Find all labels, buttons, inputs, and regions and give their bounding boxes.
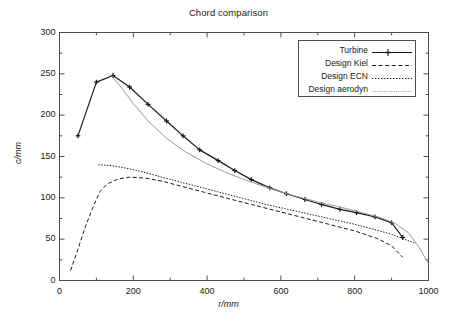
legend-label-design-aerodyn: Design aerodyn [308, 84, 368, 94]
chart-figure: Chord comparison 050100150200250300 0200… [0, 0, 457, 325]
x-axis-title: r/mm [0, 299, 457, 309]
legend-label-turbine: Turbine [339, 45, 368, 55]
series-turbine [76, 73, 406, 240]
legend-item-design-aerodyn[interactable]: Design aerodyn [299, 82, 415, 95]
x-tick-label: 1000 [404, 286, 454, 296]
y-tick-label: 250 [40, 68, 55, 78]
x-tick-label: 800 [330, 286, 380, 296]
data-point-marker [76, 133, 81, 138]
legend-swatch-design-aerodyn [372, 83, 412, 94]
legend-item-turbine[interactable]: Turbine [299, 43, 415, 56]
series-design-ecn [98, 165, 415, 244]
legend-label-design-kiel: Design Kiel [325, 58, 368, 68]
data-series-group [71, 73, 429, 270]
x-tick-label: 400 [182, 286, 232, 296]
x-tick-label: 0 [35, 286, 85, 296]
legend-item-design-kiel[interactable]: Design Kiel [299, 56, 415, 69]
x-tick-label: 200 [108, 286, 158, 296]
y-tick-label: 300 [40, 27, 55, 37]
y-axis-title: c/mm [13, 123, 23, 183]
legend[interactable]: Turbine Design Kiel Design ECN Design ae… [298, 40, 416, 97]
y-tick-label: 200 [40, 109, 55, 119]
legend-swatch-turbine [372, 44, 412, 55]
y-tick-label: 0 [50, 275, 55, 285]
data-point-marker [94, 80, 99, 85]
legend-item-design-ecn[interactable]: Design ECN [299, 69, 415, 82]
legend-swatch-design-kiel [372, 57, 412, 68]
y-tick-label: 50 [45, 233, 55, 243]
legend-label-design-ecn: Design ECN [321, 71, 368, 81]
y-tick-label: 100 [40, 192, 55, 202]
x-tick-label: 600 [256, 286, 306, 296]
series-design-aerodyn [111, 75, 428, 263]
y-tick-label: 150 [40, 151, 55, 161]
legend-swatch-design-ecn [372, 70, 412, 81]
